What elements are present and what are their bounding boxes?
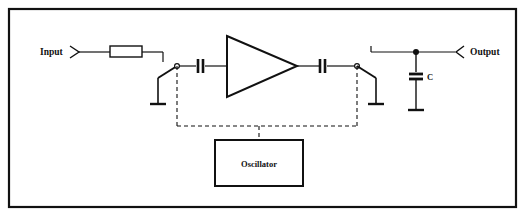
resistor — [110, 46, 142, 57]
output-terminal-icon — [456, 46, 464, 58]
output-label: Output — [470, 47, 500, 57]
input-terminal-icon — [70, 46, 79, 58]
schematic-figure: Input — [0, 0, 525, 216]
capacitor-c-label: C — [427, 72, 433, 82]
switch-left-blade — [158, 66, 177, 78]
input-label: Input — [40, 47, 64, 57]
oscillator-label: Oscillator — [241, 159, 277, 169]
switch-right-blade — [357, 66, 376, 78]
amplifier-triangle-icon — [227, 36, 297, 97]
